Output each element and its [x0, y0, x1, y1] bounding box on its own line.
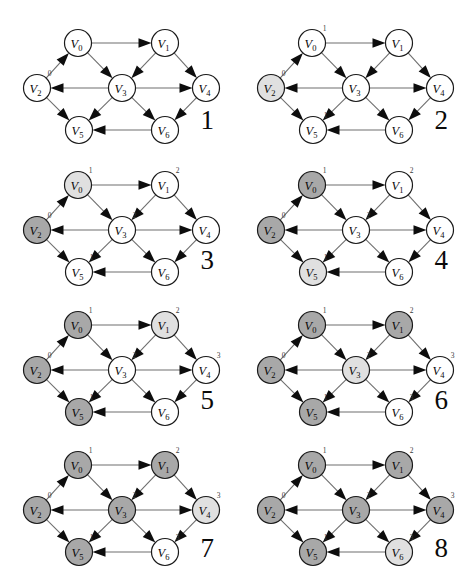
node-distance-superscript: 3	[217, 491, 221, 500]
node-v4[interactable]: V4	[193, 217, 220, 244]
edge-arrowhead	[139, 320, 152, 330]
node-distance-superscript: 0	[282, 69, 286, 78]
node-distance-superscript: 1	[323, 166, 327, 175]
node-v6[interactable]: V6	[386, 117, 413, 144]
node-v4[interactable]: V43	[427, 351, 455, 384]
edge-line	[47, 240, 63, 256]
node-label-subscript: 4	[440, 510, 445, 520]
node-v3[interactable]: V32	[109, 491, 137, 524]
node-v3[interactable]: V32	[343, 491, 371, 524]
node-v5[interactable]: V51	[66, 533, 94, 566]
edge-line	[408, 335, 424, 353]
node-v1[interactable]: V12	[152, 306, 180, 339]
edge-V0-to-V1	[92, 460, 152, 470]
node-v0[interactable]: V01	[65, 306, 93, 339]
panel-number-label: 6	[435, 387, 449, 414]
node-v1[interactable]: V12	[152, 166, 180, 199]
edge-V3-to-V6	[132, 519, 156, 542]
node-v3[interactable]: V32	[109, 351, 137, 384]
node-label-subscript: 4	[440, 230, 445, 240]
node-v2[interactable]: V20	[24, 491, 52, 524]
node-v3[interactable]: V32	[343, 211, 371, 244]
edge-arrowhead	[414, 83, 427, 93]
node-v1[interactable]: V1	[386, 30, 413, 57]
node-v2[interactable]: V20	[258, 351, 286, 384]
edge-line	[372, 335, 389, 353]
edge-V6-to-V5	[327, 407, 386, 417]
node-label-subscript: 5	[313, 552, 317, 562]
graph-panel-4: V01V12V20V32V4V51V64	[234, 142, 468, 282]
node-v1[interactable]: V12	[386, 446, 414, 479]
edge-arrowhead	[285, 225, 298, 235]
node-v0[interactable]: V01	[299, 24, 327, 57]
node-v4[interactable]: V43	[427, 491, 455, 524]
node-v5[interactable]: V51	[66, 393, 94, 426]
node-v2[interactable]: V20	[258, 69, 286, 102]
node-v6[interactable]: V63	[386, 393, 414, 426]
node-distance-superscript: 2	[176, 306, 180, 315]
edge-V3-to-V6	[366, 519, 390, 542]
node-v1[interactable]: V12	[152, 446, 180, 479]
edge-V2-to-V5	[281, 98, 304, 121]
node-distance-superscript: 1	[89, 446, 93, 455]
edge-V6-to-V5	[93, 547, 152, 557]
node-v2[interactable]: V20	[258, 491, 286, 524]
node-v5[interactable]: V51	[300, 253, 328, 286]
edge-V3-to-V6	[132, 97, 156, 120]
node-v2[interactable]: V20	[24, 69, 52, 102]
node-v2[interactable]: V20	[258, 211, 286, 244]
edge-line	[372, 195, 389, 213]
node-v0[interactable]: V0	[65, 30, 92, 57]
node-label-subscript: 2	[271, 370, 275, 380]
node-v3[interactable]: V3	[343, 75, 370, 102]
edge-V0-to-V1	[326, 38, 386, 48]
edge-V1-to-V3	[365, 53, 389, 78]
figure-panel-grid: V0V1V20V3V4V5V61V01V1V20V3V4V51V62V01V12…	[0, 0, 468, 570]
graph-canvas: V01V12V20V32V43V51V63	[0, 422, 234, 570]
node-v0[interactable]: V01	[65, 446, 93, 479]
edge-V0-to-V1	[326, 180, 386, 190]
node-v6[interactable]: V63	[386, 533, 414, 566]
node-v1[interactable]: V12	[386, 306, 414, 339]
node-v6[interactable]: V6	[152, 117, 179, 144]
edge-line	[174, 195, 190, 213]
node-v5[interactable]: V5	[66, 117, 93, 144]
node-v3[interactable]: V32	[109, 211, 137, 244]
node-v4[interactable]: V43	[193, 351, 221, 384]
node-v3[interactable]: V3	[109, 75, 136, 102]
node-v5[interactable]: V51	[66, 253, 94, 286]
node-v5[interactable]: V51	[300, 533, 328, 566]
edge-line	[87, 475, 105, 494]
node-v4[interactable]: V4	[427, 75, 454, 102]
node-v5[interactable]: V51	[300, 111, 328, 144]
node-distance-superscript: 1	[90, 533, 94, 542]
panel-number-label: 1	[201, 107, 215, 134]
node-v6[interactable]: V63	[152, 533, 180, 566]
node-v0[interactable]: V01	[65, 166, 93, 199]
graph-panel-5: V01V12V20V32V43V51V65	[0, 282, 234, 422]
node-v4[interactable]: V4	[193, 75, 220, 102]
node-v2[interactable]: V20	[24, 211, 52, 244]
node-distance-superscript: 2	[176, 166, 180, 175]
node-label-subscript: 5	[313, 412, 317, 422]
node-v1[interactable]: V1	[152, 30, 179, 57]
node-v0[interactable]: V01	[299, 306, 327, 339]
edge-line	[181, 520, 196, 536]
node-label-subscript: 6	[399, 412, 403, 422]
node-v0[interactable]: V01	[299, 446, 327, 479]
edge-line	[87, 195, 105, 214]
edge-arrowhead	[285, 83, 298, 93]
node-label-subscript: 5	[79, 130, 83, 140]
node-v5[interactable]: V51	[300, 393, 328, 426]
edge-V4-to-V6	[408, 240, 430, 263]
node-v3[interactable]: V32	[343, 351, 371, 384]
edge-V3-to-V5	[89, 97, 113, 120]
edge-V3-to-V4	[370, 225, 427, 235]
edge-line	[366, 97, 383, 113]
node-v0[interactable]: V01	[299, 166, 327, 199]
edge-V3-to-V4	[136, 83, 193, 93]
node-v2[interactable]: V20	[24, 351, 52, 384]
node-v4[interactable]: V43	[193, 491, 221, 524]
node-v4[interactable]: V4	[427, 217, 454, 244]
node-v1[interactable]: V12	[386, 166, 414, 199]
